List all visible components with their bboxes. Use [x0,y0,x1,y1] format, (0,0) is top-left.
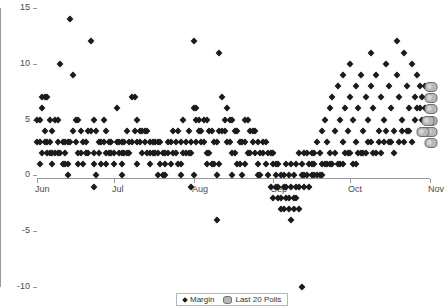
data-point-margin [308,161,315,168]
data-point-margin [116,150,123,157]
y-tick-mark [33,64,37,65]
data-point-margin [69,127,76,134]
x-tick-mark [350,179,351,183]
data-point-margin [301,150,308,157]
data-point-margin [326,150,333,157]
data-point-margin [326,161,333,168]
data-point-margin [329,94,336,101]
data-point-margin [190,105,197,112]
data-point-margin [411,116,418,123]
data-point-margin [87,38,94,45]
data-point-margin [90,116,97,123]
x-tick-mark [430,179,431,183]
data-point-margin [378,150,385,157]
chart-legend: Margin Last 20 Polls [176,293,288,306]
y-tick-label: 5 [4,115,30,124]
data-point-margin [206,127,213,134]
data-point-margin [344,127,351,134]
data-point-margin [339,138,346,145]
data-point-margin [298,161,305,168]
data-point-margin [388,138,395,145]
data-point-margin [401,49,408,56]
data-point-margin [329,161,336,168]
data-point-margin [44,138,51,145]
data-point-margin [419,116,426,123]
data-point-margin [288,161,295,168]
data-point-margin [100,138,107,145]
data-point-margin [149,150,156,157]
data-point-margin [414,71,421,78]
data-point-margin [249,138,256,145]
data-point-margin [128,94,135,101]
data-point-margin [247,127,254,134]
data-point-margin [342,150,349,157]
data-point-margin [72,138,79,145]
data-point-margin [203,150,210,157]
data-point-margin [249,127,256,134]
data-point-margin [33,138,40,145]
data-point-margin [75,150,82,157]
data-point-margin [46,138,53,145]
data-point-margin [342,105,349,112]
data-point-margin [360,127,367,134]
data-point-margin [380,138,387,145]
data-point-margin [41,127,48,134]
data-point-margin [393,38,400,45]
data-point-margin [190,38,197,45]
data-point-margin [49,127,56,134]
data-point-margin [244,116,251,123]
legend-entry-last-20-polls[interactable]: Last 20 Polls [223,295,281,304]
data-point-margin [331,127,338,134]
data-point-margin [226,138,233,145]
data-point-margin [352,138,359,145]
y-tick-mark [33,175,37,176]
data-point-margin [162,161,169,168]
data-point-margin [396,94,403,101]
data-point-margin [62,150,69,157]
y-tick-mark [33,120,37,121]
data-point-margin [416,105,423,112]
data-point-margin [85,150,92,157]
data-point-margin [421,83,428,90]
data-point-margin [175,161,182,168]
data-point-margin [216,49,223,56]
data-point-margin [234,161,241,168]
data-point-margin [290,194,297,201]
data-point-margin [426,83,433,90]
data-point-margin [46,150,53,157]
data-point-margin [390,127,397,134]
data-point-margin [277,205,284,212]
legend-entry-margin[interactable]: Margin [183,295,214,304]
data-point-margin [262,161,269,168]
data-point-margin [270,161,277,168]
data-point-margin [90,150,97,157]
data-point-margin [157,161,164,168]
data-point-margin [319,161,326,168]
y-tick-mark [33,8,37,9]
data-point-margin [216,161,223,168]
data-point-margin [80,161,87,168]
data-point-margin [134,161,141,168]
y-tick-label: 0 [4,170,30,179]
data-point-margin [280,205,287,212]
data-point-margin [421,105,428,112]
data-point-margin [113,105,120,112]
data-point-margin [121,138,128,145]
data-point-margin [51,116,58,123]
y-tick-label: -10 [4,282,30,291]
data-point-margin [141,138,148,145]
data-point-margin [57,150,64,157]
data-point-margin [236,138,243,145]
data-point-margin [388,105,395,112]
data-point-margin [254,161,261,168]
data-point-margin [36,161,43,168]
data-point-margin [44,94,51,101]
data-point-margin [370,150,377,157]
data-point-margin [126,138,133,145]
data-point-margin [306,183,313,190]
data-point-margin [403,83,410,90]
x-tick-label: Jun [35,185,50,194]
data-point-margin [393,71,400,78]
data-point-margin [98,161,105,168]
data-point-margin [134,138,141,145]
